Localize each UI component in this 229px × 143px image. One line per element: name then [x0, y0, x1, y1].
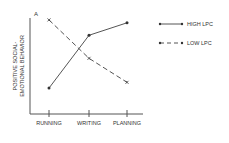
x-tick-labels: RUNNINGWRITINGPLANNING — [36, 120, 141, 126]
y-axis-label-line: EMOTIONAL BEHAVIOR — [19, 35, 25, 97]
series-line — [49, 23, 127, 88]
panel-label: A — [34, 11, 38, 17]
dot-marker — [48, 87, 51, 90]
legend-marker — [181, 42, 183, 44]
x-tick-label: PLANNING — [113, 120, 141, 126]
dot-marker — [88, 34, 91, 37]
legend: HIGH LPCLOW LPC — [159, 21, 213, 46]
dot-marker — [126, 21, 129, 24]
x-tick-label: WRITING — [77, 120, 101, 126]
y-axis-label-line: POSITIVE SOCIAL- — [12, 41, 18, 90]
y-axis-label: POSITIVE SOCIAL-EMOTIONAL BEHAVIOR — [12, 35, 25, 97]
chart: A POSITIVE SOCIAL-EMOTIONAL BEHAVIOR RUN… — [0, 0, 229, 143]
legend-marker — [181, 23, 183, 25]
legend-marker — [159, 42, 161, 44]
x-tick-label: RUNNING — [36, 120, 62, 126]
legend-marker — [159, 23, 161, 25]
series-lines — [48, 18, 129, 89]
legend-label: HIGH LPC — [187, 21, 213, 27]
legend-label: LOW LPC — [187, 40, 212, 46]
